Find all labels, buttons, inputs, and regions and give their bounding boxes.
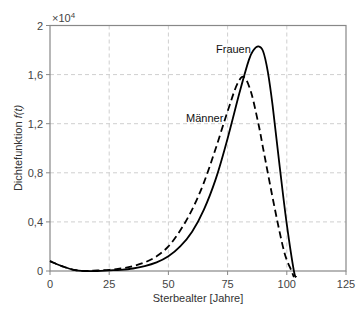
y-tick-label: 0,8	[28, 167, 43, 179]
y-multiplier: ×104	[52, 11, 76, 24]
plot-frame	[50, 26, 346, 272]
series-line-frauen	[50, 46, 296, 277]
x-tick-label: 50	[162, 278, 174, 290]
grid-lines	[50, 26, 346, 272]
y-tick-label: 0,4	[28, 216, 43, 228]
y-tick-label: 2	[37, 20, 43, 32]
x-tick-label: 0	[47, 278, 53, 290]
y-tick-label: 1,6	[28, 69, 43, 81]
y-axis-ticks: 00,40,81,21,62	[28, 20, 50, 278]
y-axis-label: Dichtefunktion f(t)	[12, 105, 24, 192]
annotation-maenner: Männer	[186, 112, 224, 124]
x-axis-label: Sterbealter [Jahre]	[153, 292, 244, 304]
x-tick-label: 75	[221, 278, 233, 290]
series-line-maenner	[50, 77, 294, 277]
y-tick-label: 1,2	[28, 118, 43, 130]
x-tick-label: 25	[103, 278, 115, 290]
y-tick-label: 0	[37, 265, 43, 277]
annotation-frauen: Frauen	[216, 43, 251, 55]
density-chart: 00,40,81,21,62 0255075100125 ×104 Frauen…	[0, 0, 363, 319]
series-lines	[50, 46, 296, 277]
x-tick-label: 100	[278, 278, 296, 290]
x-axis-ticks: 0255075100125	[47, 271, 355, 290]
x-tick-label: 125	[337, 278, 355, 290]
